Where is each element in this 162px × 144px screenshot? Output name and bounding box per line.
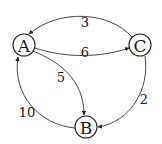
node-b: B — [75, 116, 97, 138]
graph-diagram: 3 6 5 2 10 A C B — [0, 0, 162, 144]
node-c: C — [129, 34, 151, 56]
node-a-label: A — [17, 36, 31, 56]
node-c-label: C — [133, 36, 146, 56]
edge-c-to-b — [98, 56, 146, 127]
edge-label-a-c: 6 — [81, 45, 89, 60]
node-b-label: B — [80, 118, 93, 138]
edge-label-a-b: 5 — [57, 70, 65, 85]
edge-label-c-b: 2 — [140, 92, 148, 107]
node-a: A — [13, 34, 35, 56]
edge-label-c-a: 3 — [81, 15, 89, 30]
edge-label-b-a: 10 — [19, 105, 36, 120]
